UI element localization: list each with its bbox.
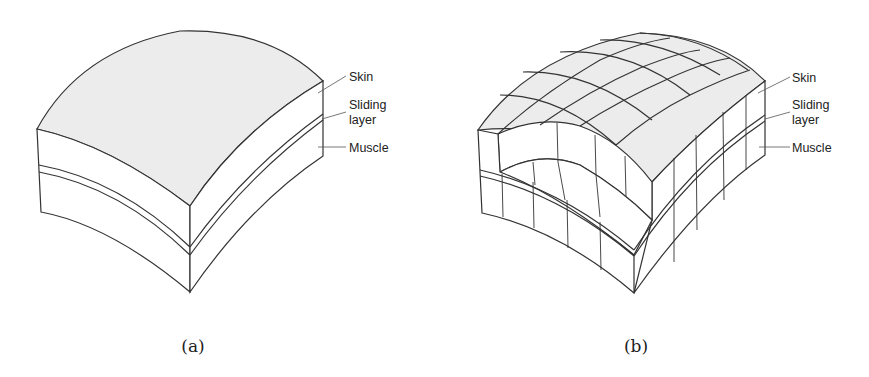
panel-a-label-sliding: Sliding bbox=[349, 98, 387, 112]
panel-b-label-sliding: Sliding bbox=[792, 98, 830, 112]
panel-a-diagram bbox=[37, 31, 346, 292]
panel-a-label-skin: Skin bbox=[349, 70, 373, 84]
panel-b-diagram bbox=[478, 33, 790, 293]
panel-a-label-layer: layer bbox=[349, 113, 376, 127]
panel-b-caption: (b) bbox=[624, 336, 648, 356]
panel-b-sliding-leader bbox=[765, 112, 790, 119]
panel-b-label-muscle: Muscle bbox=[792, 141, 832, 155]
panel-b-label-skin: Skin bbox=[792, 71, 816, 85]
panel-b-label-layer: layer bbox=[792, 113, 819, 127]
panel-a-sliding-leader bbox=[322, 112, 346, 119]
figure-canvas: Skin Sliding layer Muscle (a) bbox=[0, 0, 869, 377]
panel-a-caption: (a) bbox=[181, 336, 204, 356]
panel-a-label-muscle: Muscle bbox=[349, 141, 389, 155]
